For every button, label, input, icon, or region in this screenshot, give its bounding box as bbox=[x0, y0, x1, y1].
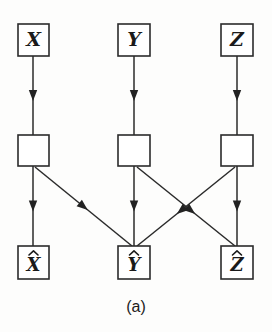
node-label: Y bbox=[128, 254, 143, 275]
node-box[interactable] bbox=[118, 135, 150, 166]
node-label: Z bbox=[229, 28, 245, 50]
edge-node-z-to-block-z bbox=[233, 56, 241, 135]
arrowhead-icon bbox=[29, 90, 37, 101]
arrowhead-icon bbox=[29, 201, 37, 212]
node-node-z-hat[interactable]: Z bbox=[221, 246, 253, 279]
edge-block-x-to-node-x-hat bbox=[29, 166, 37, 246]
node-box[interactable] bbox=[221, 135, 253, 166]
node-node-x-hat[interactable]: X bbox=[18, 246, 49, 279]
node-block-x[interactable] bbox=[18, 135, 49, 166]
edge-block-x-to-node-y-hat bbox=[35, 167, 132, 246]
node-block-z[interactable] bbox=[221, 135, 253, 166]
edge-node-x-to-block-x bbox=[29, 56, 37, 135]
edge-block-z-to-node-z-hat bbox=[233, 166, 241, 246]
node-node-y-hat[interactable]: Y bbox=[118, 246, 150, 279]
node-box[interactable] bbox=[18, 135, 49, 166]
arrowhead-icon bbox=[233, 90, 241, 101]
node-block-y[interactable] bbox=[118, 135, 150, 166]
diagram-canvas: XYZXYZ (a) bbox=[0, 0, 272, 332]
node-node-z[interactable]: Z bbox=[221, 24, 253, 56]
figure-caption: (a) bbox=[126, 298, 146, 315]
arrowhead-icon bbox=[177, 204, 188, 214]
nodes-layer: XYZXYZ bbox=[18, 24, 253, 279]
edge-block-y-to-node-y-hat bbox=[130, 166, 138, 246]
node-label: X bbox=[25, 28, 42, 50]
node-node-y[interactable]: Y bbox=[118, 24, 150, 56]
node-label: Z bbox=[229, 254, 244, 275]
arrowhead-icon bbox=[130, 201, 138, 212]
arrowhead-icon bbox=[233, 201, 241, 212]
node-node-x[interactable]: X bbox=[18, 24, 49, 56]
node-label: X bbox=[26, 254, 42, 275]
figure-container: XYZXYZ (a) bbox=[0, 0, 272, 332]
arrowhead-icon bbox=[130, 90, 138, 101]
edge-node-y-to-block-y bbox=[130, 56, 138, 135]
